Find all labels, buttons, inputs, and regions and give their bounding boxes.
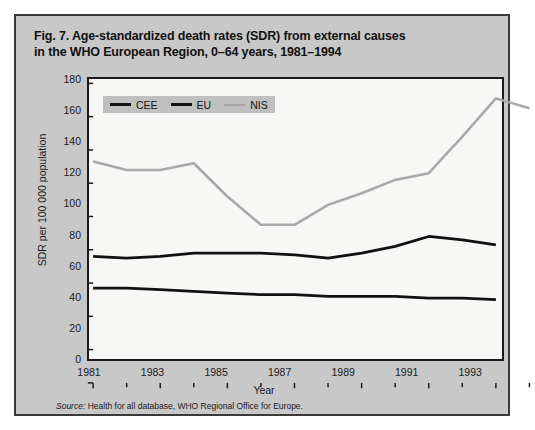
legend-item-label: CEE [136, 99, 158, 111]
y-tick-label: 80 [47, 229, 81, 241]
figure-panel: Fig. 7. Age-standardized death rates (SD… [14, 14, 510, 416]
legend-item: EU [171, 99, 212, 111]
x-tick-label: 1981 [69, 366, 109, 378]
plot-area [87, 77, 504, 361]
legend-item: NIS [224, 99, 268, 111]
figure-title-line-2: in the WHO European Region, 0–64 years, … [34, 44, 474, 60]
source-note-label: Source: [56, 401, 85, 411]
x-tick-label: 1985 [196, 366, 236, 378]
figure-title-line-1: Fig. 7. Age-standardized death rates (SD… [34, 28, 474, 44]
y-tick-label: 0 [47, 353, 81, 365]
source-note-text: Health for all database, WHO Regional Of… [85, 401, 303, 411]
chart-legend: CEEEUNIS [103, 96, 275, 113]
y-tick-label: 100 [47, 197, 81, 209]
x-tick-label: 1989 [323, 366, 363, 378]
line-swatch-icon [110, 103, 131, 106]
legend-item: CEE [110, 99, 158, 111]
x-tick-label: 1987 [260, 366, 300, 378]
line-swatch-icon [171, 103, 192, 106]
legend-item-label: EU [197, 99, 212, 111]
x-tick-label: 1993 [450, 366, 490, 378]
figure-title: Fig. 7. Age-standardized death rates (SD… [34, 28, 474, 60]
x-tick-label: 1983 [133, 366, 173, 378]
x-tick-label: 1991 [387, 366, 427, 378]
source-note: Source: Health for all database, WHO Reg… [56, 401, 303, 411]
y-tick-label: 140 [47, 135, 81, 147]
y-tick-label: 40 [47, 291, 81, 303]
y-tick-label: 120 [47, 166, 81, 178]
y-tick-label: 180 [47, 73, 81, 85]
y-tick-label: 160 [47, 104, 81, 116]
y-tick-label: 60 [47, 260, 81, 272]
y-tick-label: 20 [47, 322, 81, 334]
line-swatch-icon [224, 104, 245, 106]
x-axis-label: Year [16, 384, 512, 396]
legend-item-label: NIS [250, 99, 268, 111]
